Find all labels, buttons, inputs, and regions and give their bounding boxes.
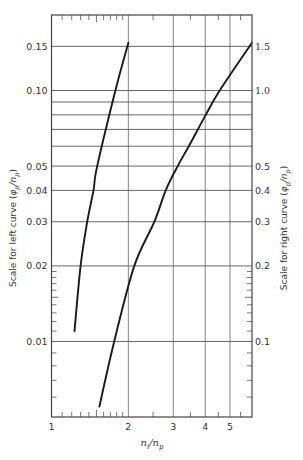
y-axis-right-title: Scale for right curve (φp/np) [279, 166, 292, 290]
y-right-tick-label: 1.0 [255, 85, 270, 96]
y-left-tick-label: 0.15 [26, 41, 47, 52]
data-curves [75, 43, 253, 407]
gridlines [52, 15, 253, 417]
chart: 123450.010.020.030.040.050.100.150.10.20… [0, 0, 303, 460]
y-right-tick-label: 0.5 [255, 161, 270, 172]
x-tick-label: 3 [170, 421, 176, 432]
y-left-tick-label: 0.02 [26, 260, 47, 271]
y-axis-left-title: Scale for left curve (φp/np) [8, 169, 21, 287]
x-tick-label: 4 [202, 421, 208, 432]
y-left-tick-label: 0.03 [26, 216, 47, 227]
x-axis-title: ni/np [141, 437, 165, 451]
y-left-tick-label: 0.04 [26, 185, 47, 196]
left-curve [75, 43, 129, 331]
y-right-tick-label: 0.2 [255, 260, 270, 271]
y-left-tick-label: 0.01 [26, 336, 47, 347]
y-left-tick-label: 0.05 [26, 161, 47, 172]
tick-marks [52, 15, 253, 417]
right-curve [99, 43, 252, 407]
y-left-tick-label: 0.10 [26, 85, 47, 96]
plot-frame [52, 15, 253, 417]
x-tick-label: 2 [125, 421, 131, 432]
x-tick-label: 5 [227, 421, 233, 432]
y-right-tick-label: 0.3 [255, 216, 270, 227]
y-right-tick-label: 1.5 [255, 41, 270, 52]
y-right-tick-label: 0.4 [255, 185, 270, 196]
y-right-tick-label: 0.1 [255, 336, 270, 347]
x-tick-label: 1 [48, 421, 54, 432]
